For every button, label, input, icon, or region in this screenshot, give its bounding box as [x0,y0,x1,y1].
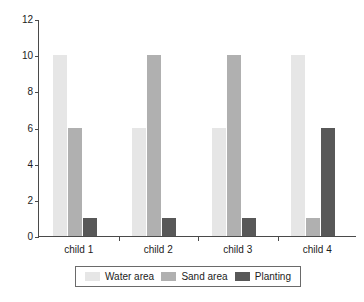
y-axis-tick-mark [35,56,39,57]
legend-label: Sand area [181,271,227,282]
bar-chart: 024681012 child 1child 2child 3child 4 W… [0,0,364,302]
y-axis-tick-label: 6 [5,124,33,134]
y-axis-tick-label: 10 [5,51,33,61]
bar [83,218,97,236]
y-axis-tick-label: 12 [5,15,33,25]
bar [68,128,82,237]
legend-item[interactable]: Water area [85,271,154,282]
x-axis-label: child 3 [198,244,278,255]
y-axis-tick-mark [35,201,39,202]
x-axis-separator [119,236,120,241]
legend-swatch-icon [161,272,176,281]
bar [132,128,146,237]
legend-label: Planting [255,271,291,282]
y-axis-tick-label: 8 [5,87,33,97]
y-axis-tick-label: 2 [5,196,33,206]
x-axis-label: child 1 [39,244,119,255]
bar [242,218,256,236]
x-axis-label: child 2 [119,244,199,255]
y-axis-tick-mark [35,129,39,130]
y-axis-tick-mark [35,20,39,21]
legend-item[interactable]: Planting [235,271,291,282]
chart-legend: Water areaSand areaPlanting [75,266,301,287]
bar [306,218,320,236]
legend-label: Water area [105,271,154,282]
bar [291,55,305,236]
y-axis-tick-label: 0 [5,232,33,242]
legend-swatch-icon [85,272,100,281]
bar [321,128,335,237]
x-axis-separator [198,236,199,241]
bar [162,218,176,236]
y-axis-tick-label: 4 [5,160,33,170]
plot-area: 024681012 child 1child 2child 3child 4 [38,20,356,237]
bar [227,55,241,236]
bar [53,55,67,236]
y-axis-tick-mark [35,92,39,93]
y-axis-tick-mark [35,237,39,238]
legend-item[interactable]: Sand area [161,271,227,282]
y-axis-tick-mark [35,165,39,166]
x-axis-separator [278,236,279,241]
bar [212,128,226,237]
legend-swatch-icon [235,272,250,281]
x-axis-label: child 4 [278,244,358,255]
bar [147,55,161,236]
